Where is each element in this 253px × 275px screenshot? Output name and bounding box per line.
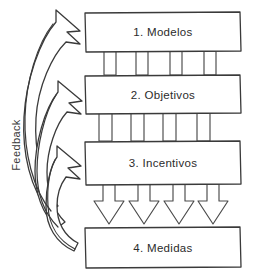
flow-diagram-svg: 1. Modelos 2. Objetivos 3. Incentivos 4.… <box>0 0 253 275</box>
down-arrow <box>94 184 124 224</box>
down-arrow <box>129 184 159 224</box>
down-arrow <box>198 184 228 224</box>
connector-arrows-incentivos-medidas <box>94 184 228 224</box>
feedback-arrow-group <box>24 10 82 251</box>
box-modelos[interactable]: 1. Modelos <box>85 12 241 52</box>
feedback-label: Feedback <box>10 119 22 171</box>
down-arrow <box>164 184 194 224</box>
box-incentivos-label: 3. Incentivos <box>129 157 197 169</box>
box-incentivos[interactable]: 3. Incentivos <box>85 141 241 185</box>
connector-bar <box>104 51 116 75</box>
box-medidas[interactable]: 4. Medidas <box>85 227 241 268</box>
connector-bar <box>131 113 144 141</box>
connector-bar <box>204 51 216 75</box>
feedback-label-group: Feedback <box>10 119 22 171</box>
box-medidas-label: 4. Medidas <box>133 242 192 254</box>
connector-bar <box>99 113 112 141</box>
connector-bar <box>170 51 182 75</box>
feedback-arrow-to-incentivos <box>46 146 81 251</box>
connector-bar <box>197 113 210 141</box>
connector-bar <box>136 51 148 75</box>
box-modelos-label: 1. Modelos <box>133 26 192 38</box>
diagram-canvas: 1. Modelos 2. Objetivos 3. Incentivos 4.… <box>0 0 253 275</box>
connector-bars-objetivos-incentivos <box>99 113 210 141</box>
box-objetivos[interactable]: 2. Objetivos <box>85 75 241 114</box>
connector-bars-modelos-objetivos <box>104 51 216 75</box>
connector-bar <box>163 113 176 141</box>
box-objetivos-label: 2. Objetivos <box>131 89 195 101</box>
